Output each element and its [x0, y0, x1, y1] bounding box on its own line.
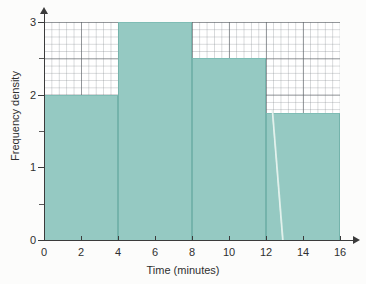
- y-minor-tick: [39, 204, 44, 205]
- x-tick-label: 14: [297, 246, 309, 258]
- x-tick-label: 2: [78, 246, 84, 258]
- x-axis-arrow-icon: [353, 236, 360, 244]
- y-axis-arrow-icon: [40, 7, 48, 14]
- y-minor-tick: [39, 58, 44, 59]
- y-axis-title: Frequency density: [9, 51, 21, 181]
- x-tick: [118, 236, 119, 241]
- y-tick-label: 1: [24, 161, 36, 173]
- y-tick-label: 0: [24, 234, 36, 246]
- x-tick-label: 8: [189, 246, 195, 258]
- histogram-bar[interactable]: [118, 22, 192, 240]
- plot-area: [44, 22, 340, 240]
- x-axis-title: Time (minutes): [0, 264, 366, 276]
- y-tick-label: 2: [24, 89, 36, 101]
- x-tick: [81, 236, 82, 241]
- x-tick-label: 4: [115, 246, 121, 258]
- x-tick-label: 0: [41, 246, 47, 258]
- histogram-bar[interactable]: [266, 113, 340, 240]
- y-tick: [38, 22, 44, 23]
- x-axis-line: [44, 240, 355, 241]
- x-tick: [266, 236, 267, 241]
- x-tick: [340, 236, 341, 241]
- y-tick: [38, 240, 44, 241]
- y-minor-tick: [39, 131, 44, 132]
- histogram-figure: 0246810121416 0123 Time (minutes) Freque…: [0, 0, 366, 284]
- x-tick-label: 12: [260, 246, 272, 258]
- x-tick-label: 10: [223, 246, 235, 258]
- y-tick: [38, 95, 44, 96]
- x-tick-label: 16: [334, 246, 346, 258]
- histogram-bar[interactable]: [44, 95, 118, 240]
- x-tick: [229, 236, 230, 241]
- x-tick: [303, 236, 304, 241]
- y-tick-label: 3: [24, 16, 36, 28]
- x-tick-label: 6: [152, 246, 158, 258]
- y-tick: [38, 167, 44, 168]
- x-tick: [44, 236, 45, 241]
- x-tick: [192, 236, 193, 241]
- x-tick: [155, 236, 156, 241]
- histogram-bar[interactable]: [192, 58, 266, 240]
- y-axis-line: [44, 12, 45, 241]
